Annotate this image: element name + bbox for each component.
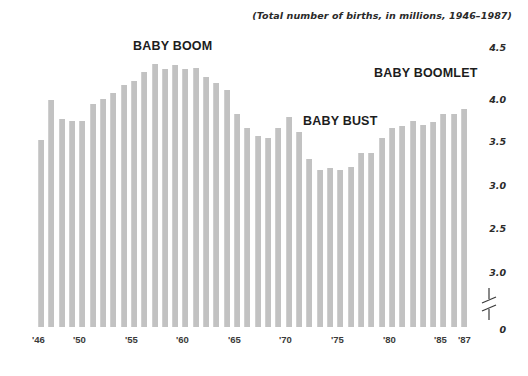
x-axis-tick-label: '70 <box>279 334 292 345</box>
x-axis-tick-label: '65 <box>228 334 241 345</box>
bar <box>172 65 178 327</box>
bar <box>389 128 395 328</box>
x-axis-tick-label: '55 <box>125 334 138 345</box>
births-bar-chart: (Total number of births, in millions, 19… <box>0 0 528 376</box>
bar <box>265 138 271 328</box>
bar <box>399 126 405 327</box>
x-axis-tick-label: '46 <box>32 334 45 345</box>
bar <box>152 64 158 327</box>
x-axis-tick-label: '80 <box>383 334 396 345</box>
y-axis-tick-label: 4.0 <box>489 94 506 105</box>
annotation-baby-boom: BABY BOOM <box>133 39 212 53</box>
bar <box>79 121 85 327</box>
bar <box>348 167 354 327</box>
bar <box>379 138 385 327</box>
bar <box>110 93 116 327</box>
bar <box>296 132 302 327</box>
bar <box>162 69 168 327</box>
bar <box>368 153 374 327</box>
x-axis-tick-label: '60 <box>176 334 189 345</box>
bar <box>234 114 240 327</box>
bar <box>286 117 292 327</box>
y-axis-tick-label: 4.5 <box>489 42 506 53</box>
bar <box>141 72 147 327</box>
bar <box>440 114 446 327</box>
bar <box>337 170 343 327</box>
y-axis-tick-label: 3.5 <box>489 136 506 147</box>
bar <box>327 168 333 327</box>
bar <box>244 128 250 328</box>
x-axis-tick-label: '85 <box>434 334 447 345</box>
bar-series <box>38 0 472 376</box>
bar <box>90 104 96 327</box>
y-axis-tick-label: 3.0 <box>489 267 506 278</box>
annotation-baby-bust: BABY BUST <box>303 114 378 128</box>
bar <box>275 128 281 327</box>
bar <box>410 121 416 327</box>
bar <box>100 99 106 327</box>
bar <box>358 153 364 327</box>
bar <box>430 122 436 327</box>
bar <box>203 77 209 327</box>
x-axis: '46'50'55'60'65'70'75'80'85'87 <box>0 334 528 354</box>
bar <box>121 85 127 327</box>
bar <box>451 114 457 327</box>
y-axis-tick-label: 2.5 <box>489 223 506 234</box>
bar <box>317 170 323 327</box>
bar <box>461 109 467 327</box>
axis-break-icon <box>480 288 498 320</box>
bar <box>38 140 44 327</box>
bar <box>306 159 312 327</box>
bar <box>420 125 426 327</box>
bar <box>193 68 199 327</box>
bar <box>224 90 230 328</box>
bar <box>69 121 75 327</box>
bar <box>131 81 137 327</box>
bar <box>182 69 188 327</box>
x-axis-tick-label: '87 <box>458 334 471 345</box>
bar <box>59 119 65 327</box>
y-axis: 4.54.03.53.02.53.00 <box>478 0 518 376</box>
annotation-baby-boomlet: BABY BOOMLET <box>374 66 478 80</box>
y-axis-tick-label: 3.0 <box>489 180 506 191</box>
plot-area <box>0 0 528 376</box>
x-axis-tick-label: '50 <box>73 334 86 345</box>
bar <box>213 83 219 327</box>
bar <box>255 136 261 327</box>
x-axis-tick-label: '75 <box>331 334 344 345</box>
bar <box>48 100 54 328</box>
